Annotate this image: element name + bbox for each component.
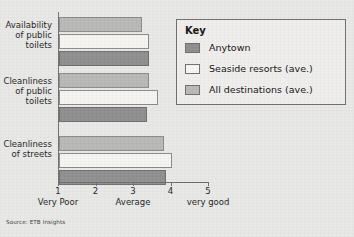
bar xyxy=(59,17,142,32)
x-axis-tick-label: 4 xyxy=(161,186,181,196)
category-label-line: of streets xyxy=(0,149,52,159)
category-label-line: of public xyxy=(0,86,52,96)
category-label-line: toilets xyxy=(0,40,52,50)
bar xyxy=(59,90,158,105)
legend-swatch-icon-anytown xyxy=(185,43,200,53)
category-label-cleanliness-public-toilets: Cleanliness of public toilets xyxy=(0,76,52,107)
category-label-line: Cleanliness xyxy=(0,76,52,86)
legend-label-anytown: Anytown xyxy=(209,42,250,54)
source-note: Source: ETB Insights xyxy=(6,219,65,225)
category-label-line: of public xyxy=(0,30,52,40)
x-axis-tick-label: 1 xyxy=(48,186,68,196)
y-axis-line xyxy=(58,12,59,182)
x-axis-tick-caption: Very Poor xyxy=(23,197,93,207)
category-label-cleanliness-streets: Cleanliness of streets xyxy=(0,139,52,159)
bar xyxy=(59,51,149,66)
bar xyxy=(59,153,172,168)
bar xyxy=(59,73,149,88)
legend-swatch-icon-seaside-resorts xyxy=(185,64,200,74)
bar xyxy=(59,107,147,122)
category-label-availability-public-toilets: Availability of public toilets xyxy=(0,20,52,51)
legend-label-seaside-resorts: Seaside resorts (ave.) xyxy=(209,63,313,75)
bar xyxy=(59,34,149,49)
x-axis-tick-label: 5 xyxy=(198,186,218,196)
chart-figure: Availability of public toilets Cleanline… xyxy=(0,0,354,237)
category-label-line: Cleanliness xyxy=(0,139,52,149)
x-axis-tick-label: 2 xyxy=(86,186,106,196)
legend-label-all-destinations: All destinations (ave.) xyxy=(209,84,313,96)
x-axis-line xyxy=(58,182,209,183)
bar xyxy=(59,136,164,151)
category-label-line: toilets xyxy=(0,96,52,106)
x-axis-tick-caption: very good xyxy=(173,197,243,207)
x-axis-tick-label: 3 xyxy=(123,186,143,196)
x-axis-ticks: 1Very Poor23Average45very good xyxy=(58,182,210,212)
legend-swatch-icon-all-destinations xyxy=(185,85,200,95)
category-axis-labels: Availability of public toilets Cleanline… xyxy=(0,12,55,182)
category-label-line: Availability xyxy=(0,20,52,30)
legend-title: Key xyxy=(185,25,206,36)
legend-box: Key Anytown Seaside resorts (ave.) All d… xyxy=(176,19,346,105)
x-axis-tick-caption: Average xyxy=(98,197,168,207)
